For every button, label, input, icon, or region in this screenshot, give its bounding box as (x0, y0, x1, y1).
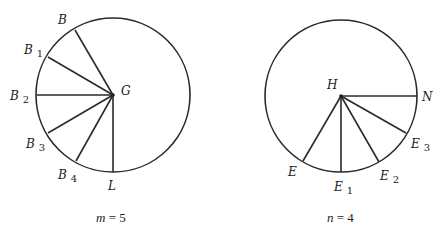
point-label: B2 (9, 89, 29, 105)
center-point (339, 94, 343, 98)
point-label-subscript: 4 (71, 173, 77, 184)
point-label-subscript: 2 (23, 94, 29, 105)
figure-caption: n = 4 (327, 210, 354, 225)
center-point (111, 93, 115, 97)
point-label-subscript: 3 (424, 142, 430, 153)
circle-figure-left: BB1B2B3B4LGm = 5 (9, 13, 190, 225)
point-label-subscript: 2 (393, 174, 399, 185)
radius-line (303, 96, 341, 161)
point-label: B4 (57, 168, 77, 184)
circle-figure-right: NE3E2E1EHn = 4 (265, 20, 433, 225)
radius-line (48, 57, 113, 95)
point-label: B (57, 13, 67, 27)
center-label: G (121, 84, 131, 98)
point-label: E1 (333, 180, 353, 196)
figure-caption: m = 5 (96, 210, 126, 225)
point-label: E3 (410, 137, 430, 153)
radius-line (75, 30, 113, 95)
point-label: L (107, 179, 116, 193)
point-label: B1 (23, 43, 43, 59)
point-label-subscript: 1 (347, 185, 353, 196)
diagram-canvas: BB1B2B3B4LGm = 5NE3E2E1EHn = 4 (0, 0, 446, 244)
point-label: N (421, 90, 433, 104)
point-label-subscript: 3 (39, 142, 45, 153)
point-label-subscript: 1 (37, 48, 43, 59)
point-label: E2 (379, 169, 399, 185)
point-label: B3 (25, 137, 45, 153)
point-label: E (287, 165, 297, 179)
center-label: H (326, 78, 338, 92)
